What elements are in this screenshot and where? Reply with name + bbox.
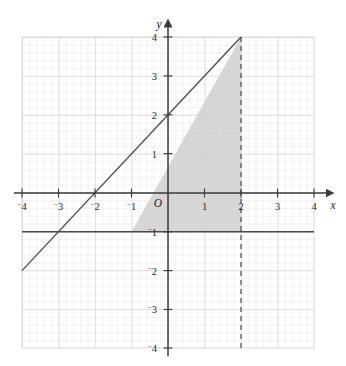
x-tick-label: 3 (275, 201, 280, 212)
y-axis-label: y (155, 18, 162, 31)
y-tick-label: −4 (148, 342, 158, 355)
x-tick-label: 4 (311, 201, 317, 212)
graph-figure: −4 −3 −2 −1 1 2 3 4 4 3 2 1 −1 −2 −3 −4 … (0, 0, 346, 366)
coordinate-plane: −4 −3 −2 −1 1 2 3 4 4 3 2 1 −1 −2 −3 −4 … (0, 0, 346, 366)
y-tick-label: 4 (152, 32, 158, 43)
origin-label: O (154, 197, 163, 209)
x-axis-label: x (329, 199, 336, 211)
x-tick-label: 1 (202, 201, 207, 212)
y-tick-label: 3 (152, 71, 157, 82)
x-tick-label: −4 (17, 200, 27, 213)
x-tick-label: 2 (238, 201, 243, 212)
y-tick-label: 1 (152, 149, 157, 160)
y-tick-label: 2 (152, 110, 157, 121)
